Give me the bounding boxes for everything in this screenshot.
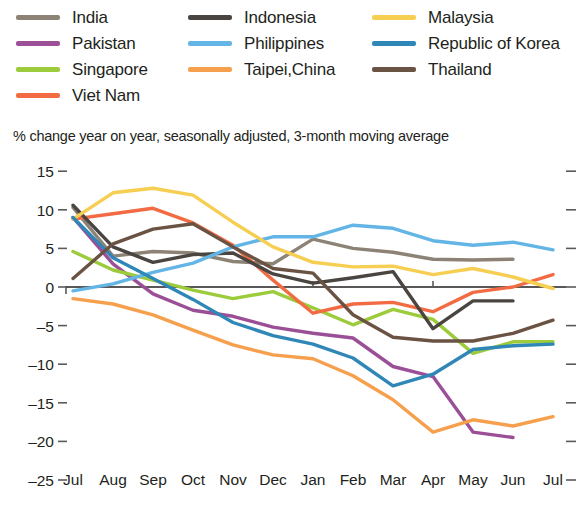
legend-item-label: Pakistan: [72, 35, 136, 52]
legend-swatch-icon: [16, 41, 60, 46]
legend-item-malaysia[interactable]: Malaysia: [372, 4, 560, 30]
legend-item-pakistan[interactable]: Pakistan: [16, 30, 148, 56]
legend-item-label: Malaysia: [428, 9, 493, 26]
legend-item-label: Singapore: [72, 61, 148, 78]
x-tick-label: Oct: [181, 471, 206, 488]
legend-item-label: Viet Nam: [72, 87, 140, 104]
legend-item-label: Republic of Korea: [428, 35, 560, 52]
x-tick-label: Jun: [501, 471, 526, 488]
legend-column-3: MalaysiaRepublic of KoreaThailand: [372, 4, 560, 82]
x-tick-label: May: [458, 471, 488, 488]
line-chart-svg: 151050–5–10–15–20–25JulAugSepOctNovDecJa…: [0, 150, 588, 495]
legend-swatch-icon: [16, 93, 60, 98]
plot-area: 151050–5–10–15–20–25JulAugSepOctNovDecJa…: [0, 150, 588, 495]
y-tick-label: 15: [37, 163, 54, 180]
legend-swatch-icon: [372, 41, 416, 46]
x-tick-label: Mar: [380, 471, 407, 488]
chart-page: IndiaPakistanSingaporeViet Nam Indonesia…: [0, 0, 588, 530]
legend-item-republic-of-korea[interactable]: Republic of Korea: [372, 30, 560, 56]
legend-swatch-icon: [188, 67, 232, 72]
x-year-label: 2023: [296, 494, 330, 495]
x-tick-label: Dec: [259, 471, 287, 488]
legend-swatch-icon: [372, 15, 416, 20]
y-tick-label: 5: [45, 240, 54, 257]
legend-item-label: Indonesia: [244, 9, 316, 26]
legend-swatch-icon: [16, 15, 60, 20]
y-tick-label: –25: [28, 472, 54, 489]
legend-item-indonesia[interactable]: Indonesia: [188, 4, 335, 30]
x-tick-label: Jul: [543, 471, 563, 488]
x-tick-label: Aug: [99, 471, 127, 488]
legend-swatch-icon: [188, 15, 232, 20]
x-tick-label: Apr: [421, 471, 445, 488]
legend-item-viet-nam[interactable]: Viet Nam: [16, 82, 148, 108]
series-line-taipei-china: [73, 299, 553, 433]
legend-column-2: IndonesiaPhilippinesTaipei,China: [188, 4, 335, 82]
y-tick-label: 0: [45, 279, 54, 296]
y-tick-label: 10: [37, 202, 55, 219]
chart-legend: IndiaPakistanSingaporeViet Nam Indonesia…: [0, 0, 588, 112]
legend-swatch-icon: [16, 67, 60, 72]
legend-item-thailand[interactable]: Thailand: [372, 56, 560, 82]
legend-swatch-icon: [372, 67, 416, 72]
y-tick-label: –15: [28, 395, 54, 412]
x-tick-label: Nov: [219, 471, 247, 488]
y-axis-title: % change year on year, seasonally adjust…: [13, 128, 449, 144]
x-tick-label: Jan: [301, 471, 326, 488]
y-tick-label: –5: [37, 318, 54, 335]
legend-item-label: Thailand: [428, 61, 492, 78]
legend-item-label: India: [72, 9, 108, 26]
x-tick-label: Sep: [139, 471, 167, 488]
legend-item-label: Philippines: [244, 35, 324, 52]
legend-column-1: IndiaPakistanSingaporeViet Nam: [16, 4, 148, 108]
legend-item-label: Taipei,China: [244, 61, 335, 78]
legend-item-singapore[interactable]: Singapore: [16, 56, 148, 82]
legend-item-india[interactable]: India: [16, 4, 148, 30]
x-tick-label: Jul: [63, 471, 83, 488]
legend-item-taipei-china[interactable]: Taipei,China: [188, 56, 335, 82]
x-year-label: 2022: [56, 494, 90, 495]
y-tick-label: –20: [28, 433, 54, 450]
y-tick-label: –10: [28, 356, 54, 373]
legend-item-philippines[interactable]: Philippines: [188, 30, 335, 56]
legend-swatch-icon: [188, 41, 232, 46]
x-tick-label: Feb: [340, 471, 367, 488]
